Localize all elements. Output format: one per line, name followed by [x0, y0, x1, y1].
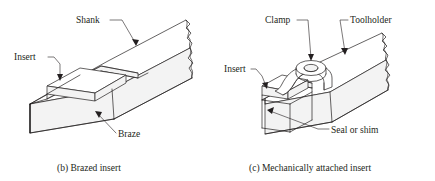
caption-panel-b: (b) Brazed insert [57, 163, 121, 174]
label-shank-leader [110, 20, 136, 44]
label-toolholder-text: Toolholder [350, 15, 392, 25]
label-braze-text: Braze [118, 129, 140, 139]
label-seal-or-shim-text: Seal or shim [331, 125, 379, 135]
label-shank-text: Shank [76, 15, 100, 25]
label-insert-b: Insert [14, 52, 63, 81]
label-clamp-leader [297, 20, 311, 58]
technical-illustration: Shank Insert Braze (b) Brazed insert [0, 0, 435, 181]
figure-root: Shank Insert Braze (b) Brazed insert [0, 0, 435, 181]
label-shank: Shank [76, 15, 139, 46]
label-clamp-text: Clamp [265, 15, 291, 25]
caption-panel-c: (c) Mechanically attached insert [249, 163, 371, 174]
label-clamp: Clamp [265, 15, 314, 61]
panel-brazed-insert: Shank Insert Braze (b) Brazed insert [14, 15, 193, 174]
label-toolholder-leader [340, 20, 348, 52]
panel-mechanically-attached-insert: Clamp Toolholder Insert Seal or shim [224, 15, 392, 174]
label-insert-c-text: Insert [224, 64, 246, 74]
label-insert-text: Insert [14, 52, 36, 62]
label-clamp-arrowhead [308, 54, 314, 61]
label-insert-c: Insert [224, 64, 268, 89]
